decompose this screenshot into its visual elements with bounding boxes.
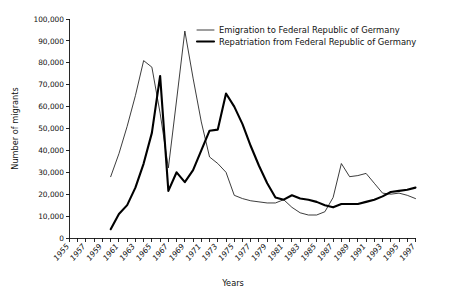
y-axis-title: Number of migrants [10, 87, 20, 169]
chart-canvas: 010,00020,00030,00040,00050,00060,00070,… [0, 0, 449, 293]
x-tick-label: 1963 [118, 242, 137, 263]
y-tick-label: 60,000 [38, 102, 64, 111]
series-line-2 [111, 76, 416, 229]
x-tick-label: 1955 [52, 242, 71, 263]
y-tick-label: 0 [59, 234, 64, 243]
x-tick-label: 1981 [266, 242, 285, 263]
series-line-1 [111, 31, 416, 215]
data-series-group [111, 31, 416, 229]
x-tick-label: 1983 [282, 242, 301, 263]
x-axis: 1955195719591961196319651967196919711973… [52, 238, 417, 263]
x-tick-label: 1991 [348, 242, 367, 263]
x-tick-label: 1995 [381, 242, 400, 263]
migration-line-chart: 010,00020,00030,00040,00050,00060,00070,… [0, 0, 449, 293]
x-tick-label: 1993 [365, 242, 384, 263]
x-tick-label: 1977 [233, 242, 252, 263]
y-tick-label: 50,000 [38, 124, 64, 133]
x-axis-title: Years [221, 278, 244, 288]
y-tick-label: 90,000 [38, 37, 64, 46]
x-tick-label: 1971 [184, 242, 203, 263]
legend-label-1: Emigration to Federal Republic of German… [219, 25, 400, 35]
x-tick-label: 1957 [68, 242, 87, 263]
x-tick-label: 1975 [216, 242, 235, 263]
x-tick-label: 1967 [151, 242, 170, 263]
y-tick-label: 40,000 [38, 146, 64, 155]
y-tick-label: 80,000 [38, 58, 64, 67]
x-tick-label: 1979 [249, 242, 268, 263]
x-tick-label: 1989 [332, 242, 351, 263]
x-tick-label: 1961 [101, 242, 120, 263]
x-tick-label: 1987 [315, 242, 334, 263]
x-tick-label: 1969 [167, 242, 186, 263]
legend-label-2: Repatriation from Federal Republic of Ge… [219, 37, 416, 47]
y-tick-label: 100,000 [33, 15, 64, 24]
y-tick-label: 20,000 [38, 190, 64, 199]
y-tick-label: 70,000 [38, 80, 64, 89]
x-tick-label: 1997 [398, 242, 417, 263]
chart-legend: Emigration to Federal Republic of German… [197, 25, 416, 47]
x-tick-label: 1973 [200, 242, 219, 263]
x-tick-label: 1985 [299, 242, 318, 263]
y-axis: 010,00020,00030,00040,00050,00060,00070,… [33, 15, 69, 243]
y-tick-label: 30,000 [38, 168, 64, 177]
x-tick-label: 1959 [85, 242, 104, 263]
x-tick-label: 1965 [134, 242, 153, 263]
y-tick-label: 10,000 [38, 212, 64, 221]
